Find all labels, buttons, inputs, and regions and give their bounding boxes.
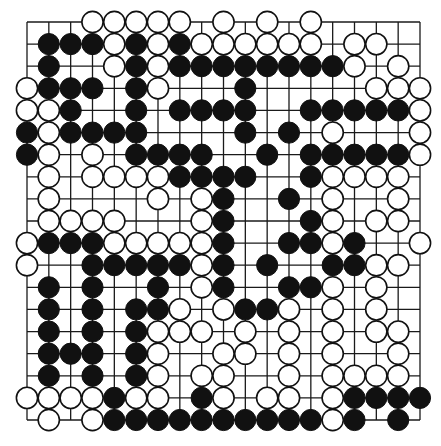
white-stone (16, 387, 37, 408)
black-stone (322, 144, 343, 165)
white-stone (60, 387, 81, 408)
white-stone (147, 387, 168, 408)
white-stone (344, 365, 365, 386)
white-stone (38, 210, 59, 231)
black-stone (126, 321, 147, 342)
white-stone (169, 11, 190, 32)
white-stone (147, 56, 168, 77)
stones-layer[interactable] (16, 11, 430, 430)
black-stone (60, 34, 81, 55)
black-stone (126, 56, 147, 77)
black-stone (16, 122, 37, 143)
white-stone (388, 56, 409, 77)
white-stone (388, 188, 409, 209)
white-stone (322, 233, 343, 254)
black-stone (344, 100, 365, 121)
white-stone (366, 321, 387, 342)
black-stone (60, 233, 81, 254)
black-stone (344, 144, 365, 165)
white-stone (322, 409, 343, 430)
white-stone (322, 365, 343, 386)
black-stone (278, 277, 299, 298)
go-board[interactable]: go (0, 0, 441, 446)
black-stone (213, 188, 234, 209)
black-stone (60, 343, 81, 364)
black-stone (126, 255, 147, 276)
black-stone (60, 100, 81, 121)
white-stone (366, 255, 387, 276)
white-stone (104, 233, 125, 254)
white-stone (126, 11, 147, 32)
black-stone (300, 100, 321, 121)
white-stone (38, 122, 59, 143)
black-stone (344, 387, 365, 408)
white-stone (278, 321, 299, 342)
white-stone (278, 299, 299, 320)
black-stone (82, 34, 103, 55)
white-stone (191, 365, 212, 386)
white-stone (322, 299, 343, 320)
white-stone (38, 409, 59, 430)
black-stone (82, 277, 103, 298)
black-stone (16, 144, 37, 165)
black-stone (169, 56, 190, 77)
white-stone (366, 34, 387, 55)
white-stone (322, 122, 343, 143)
white-stone (409, 233, 430, 254)
white-stone (322, 343, 343, 364)
black-stone (257, 255, 278, 276)
white-stone (366, 365, 387, 386)
black-stone (38, 277, 59, 298)
black-stone (82, 255, 103, 276)
white-stone (16, 255, 37, 276)
white-stone (213, 387, 234, 408)
black-stone (344, 409, 365, 430)
black-stone (213, 409, 234, 430)
black-stone (213, 277, 234, 298)
white-stone (235, 34, 256, 55)
black-stone (147, 299, 168, 320)
black-stone (213, 210, 234, 231)
white-stone (104, 166, 125, 187)
black-stone (38, 233, 59, 254)
black-stone (257, 299, 278, 320)
white-stone (169, 299, 190, 320)
black-stone (213, 255, 234, 276)
white-stone (191, 34, 212, 55)
black-stone (278, 122, 299, 143)
black-stone (257, 409, 278, 430)
white-stone (213, 299, 234, 320)
black-stone (126, 343, 147, 364)
black-stone (388, 144, 409, 165)
black-stone (322, 255, 343, 276)
black-stone (82, 343, 103, 364)
black-stone (322, 100, 343, 121)
white-stone (388, 210, 409, 231)
white-stone (322, 188, 343, 209)
white-stone (257, 34, 278, 55)
black-stone (104, 387, 125, 408)
white-stone (300, 11, 321, 32)
white-stone (322, 387, 343, 408)
white-stone (169, 233, 190, 254)
black-stone (169, 34, 190, 55)
white-stone (82, 210, 103, 231)
white-stone (213, 34, 234, 55)
black-stone (300, 166, 321, 187)
white-stone (388, 255, 409, 276)
white-stone (38, 166, 59, 187)
white-stone (213, 11, 234, 32)
white-stone (409, 78, 430, 99)
black-stone (169, 166, 190, 187)
go-board-svg[interactable] (0, 0, 441, 446)
black-stone (388, 387, 409, 408)
black-stone (169, 409, 190, 430)
white-stone (104, 56, 125, 77)
black-stone (38, 34, 59, 55)
white-stone (191, 277, 212, 298)
black-stone (300, 277, 321, 298)
white-stone (16, 100, 37, 121)
white-stone (191, 321, 212, 342)
black-stone (126, 409, 147, 430)
white-stone (322, 166, 343, 187)
